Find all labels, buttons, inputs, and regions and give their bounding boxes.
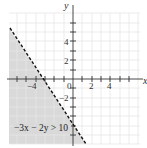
inequality-label: −3x − 2y > 10 bbox=[14, 123, 68, 133]
origin-label: 0 bbox=[67, 81, 72, 91]
y-tick-2: 2 bbox=[64, 56, 69, 66]
y-tick-4: 4 bbox=[64, 37, 69, 47]
x-axis-label: x bbox=[142, 75, 147, 86]
inequality-graph: y x −4 0 2 4 4 2 −2 −3x − 2y > 10 bbox=[0, 0, 147, 148]
y-axis-label: y bbox=[63, 0, 69, 11]
x-tick-minus4: −4 bbox=[27, 81, 37, 91]
y-tick-minus2: −2 bbox=[59, 93, 69, 103]
x-tick-4: 4 bbox=[107, 81, 112, 91]
x-tick-2: 2 bbox=[89, 81, 94, 91]
